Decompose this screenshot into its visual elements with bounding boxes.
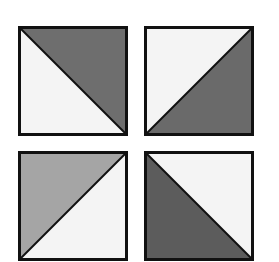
diagonal-square-icon: [18, 151, 128, 261]
diagonal-square-icon: [18, 26, 128, 136]
square-top-left: [18, 26, 128, 136]
square-bottom-right: [144, 151, 254, 261]
diagonal-square-icon: [144, 151, 254, 261]
diagonal-square-icon: [144, 26, 254, 136]
square-bottom-left: [18, 151, 128, 261]
square-top-right: [144, 26, 254, 136]
